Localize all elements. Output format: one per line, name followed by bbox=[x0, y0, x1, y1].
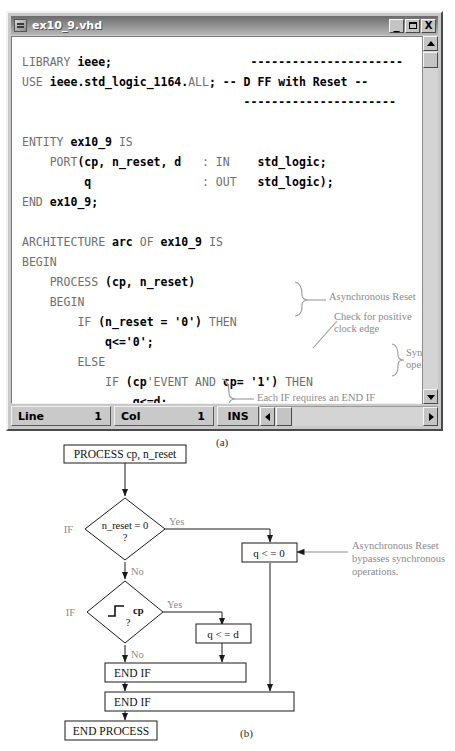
scroll-left-button[interactable] bbox=[260, 407, 275, 426]
flow-node-qd-label: q < = d bbox=[207, 628, 239, 640]
flow-edge-label-if1-no: No bbox=[131, 566, 144, 577]
annotation-each-if: Each IF requires an END IF bbox=[257, 392, 375, 404]
left-arrow-icon bbox=[265, 413, 270, 421]
flowchart-callout-line2: bypasses synchronous bbox=[352, 553, 445, 564]
flow-node-process-label: PROCESS cp, n_reset bbox=[74, 448, 177, 461]
flow-edge-label-if2-yes: Yes bbox=[167, 599, 182, 610]
right-arrow-icon bbox=[429, 413, 434, 421]
flow-node-if2-question: ? bbox=[126, 617, 131, 628]
horizontal-scrollbar[interactable] bbox=[260, 406, 438, 426]
flow-if1-prefix: IF bbox=[64, 524, 73, 535]
title-bar[interactable]: ex10_9.vhd _ X bbox=[11, 16, 438, 35]
editor-window: ex10_9.vhd _ X LIBRARY ieee; -----------… bbox=[6, 11, 443, 431]
flow-node-endif-1-label: END IF bbox=[114, 667, 151, 679]
close-icon: X bbox=[422, 20, 435, 32]
horizontal-scrollbar-thumb[interactable] bbox=[276, 407, 292, 426]
flowchart-callout-line1: Asynchronous Reset bbox=[352, 540, 439, 551]
flow-node-process: PROCESS cp, n_reset bbox=[64, 445, 186, 463]
window-controls: _ X bbox=[389, 19, 438, 33]
vhdl-file-icon bbox=[14, 19, 27, 32]
annotation-async-reset: Asynchronous Reset bbox=[329, 291, 416, 303]
annotation-check-clock-edge: Check for positive clock edge bbox=[334, 311, 412, 335]
flow-node-if1-question: ? bbox=[123, 532, 128, 543]
scroll-right-button[interactable] bbox=[423, 407, 438, 426]
flow-node-endif-1: END IF bbox=[105, 663, 246, 682]
flowchart: PROCESS cp, n_reset n_reset = 0 ? IF Yes… bbox=[0, 432, 455, 751]
status-col-cell: Col 1 bbox=[114, 406, 214, 426]
down-arrow-icon bbox=[427, 395, 435, 400]
minimize-icon: _ bbox=[390, 20, 403, 32]
vertical-scrollbar[interactable] bbox=[422, 36, 438, 404]
status-col-value: 1 bbox=[197, 410, 205, 423]
flow-node-if2-label: cp bbox=[133, 605, 144, 616]
flow-if2-prefix: IF bbox=[66, 607, 75, 618]
flow-node-if1-label: n_reset = 0 bbox=[102, 520, 149, 531]
flow-node-end-process: END PROCESS bbox=[65, 721, 157, 740]
status-line-value: 1 bbox=[94, 410, 102, 423]
maximize-button[interactable] bbox=[405, 19, 420, 33]
flow-node-endif-2: END IF bbox=[105, 692, 294, 711]
flow-node-q0-label: q < = 0 bbox=[253, 547, 285, 559]
flowchart-svg: PROCESS cp, n_reset n_reset = 0 ? IF Yes… bbox=[0, 432, 455, 751]
flowchart-callout-line3: operations. bbox=[352, 566, 398, 577]
maximize-icon bbox=[406, 20, 419, 32]
flow-node-end-process-label: END PROCESS bbox=[73, 725, 149, 737]
minimize-button[interactable]: _ bbox=[389, 19, 404, 33]
scroll-down-button[interactable] bbox=[423, 389, 438, 404]
horizontal-scrollbar-track[interactable] bbox=[292, 407, 423, 426]
flowchart-callout: Asynchronous Reset bypasses synchronous … bbox=[352, 540, 445, 577]
flow-node-qd: q < = d bbox=[196, 624, 251, 643]
code-editor-area[interactable]: LIBRARY ieee; ---------------------- USE… bbox=[11, 36, 438, 404]
status-line-label: Line bbox=[18, 410, 44, 423]
code-line: LIBRARY ieee; ---------------------- USE… bbox=[22, 55, 403, 405]
status-line-cell: Line 1 bbox=[11, 406, 111, 426]
status-insert-mode: INS bbox=[217, 406, 259, 426]
flow-edge-label-if2-no: No bbox=[131, 649, 144, 660]
flow-node-q0: q < = 0 bbox=[242, 543, 297, 562]
figure-label-b: (b) bbox=[240, 727, 253, 740]
flow-edge-label-if1-yes: Yes bbox=[169, 516, 184, 527]
flow-node-endif-2-label: END IF bbox=[114, 696, 151, 708]
status-col-label: Col bbox=[121, 410, 140, 423]
close-button[interactable]: X bbox=[421, 19, 436, 33]
status-bar: Line 1 Col 1 INS bbox=[11, 406, 438, 426]
vertical-scrollbar-thumb[interactable] bbox=[423, 52, 438, 68]
flow-node-if1: n_reset = 0 ? IF bbox=[64, 498, 165, 560]
vhdl-source-code[interactable]: LIBRARY ieee; ---------------------- USE… bbox=[22, 52, 403, 405]
scroll-up-button[interactable] bbox=[423, 36, 438, 51]
window-title: ex10_9.vhd bbox=[32, 19, 102, 32]
up-arrow-icon bbox=[427, 41, 435, 46]
flow-node-if2: cp ? IF bbox=[66, 581, 163, 643]
